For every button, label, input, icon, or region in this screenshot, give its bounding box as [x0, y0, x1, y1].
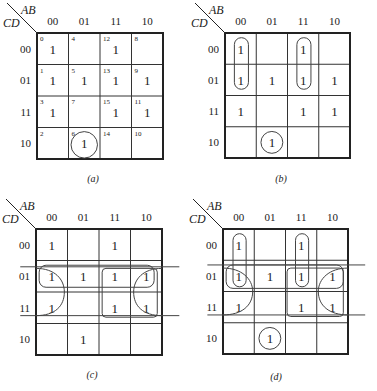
- row-label: 11: [19, 302, 30, 314]
- cell-value: 1: [298, 300, 305, 315]
- row-label: 10: [20, 137, 32, 149]
- cell-value: 1: [237, 42, 244, 57]
- cell-value: 1: [237, 73, 244, 88]
- cell-value: 1: [50, 42, 57, 57]
- minterm-index: 3: [40, 98, 44, 106]
- cell-value: 1: [112, 269, 119, 284]
- cell-value: 1: [237, 104, 244, 119]
- karnaugh-map-figure: ABCD000111100001111004128151393715112614…: [0, 0, 377, 391]
- row-label: 01: [19, 270, 30, 282]
- cell-value: 1: [235, 238, 242, 253]
- loop-group: [20, 265, 179, 317]
- row-label: 00: [19, 239, 31, 251]
- cell-value: 1: [80, 269, 87, 284]
- minterm-index: 7: [72, 98, 76, 106]
- kmap-b: ABCD00011110000111101111111111(b): [191, 3, 350, 185]
- minterm-index: 14: [103, 130, 111, 138]
- col-label: 11: [296, 211, 307, 223]
- col-var-label: AB: [206, 199, 222, 213]
- col-label: 10: [141, 211, 153, 223]
- col-label: 11: [110, 15, 121, 27]
- cell-value: 1: [113, 73, 120, 88]
- kmap-d: ABCD00011110000111101111111111(d): [189, 199, 365, 383]
- kmap-c: ABCD00011110000111101111111111(c): [2, 199, 179, 381]
- row-var-label: CD: [189, 212, 206, 226]
- cell-value: 1: [267, 269, 274, 284]
- row-label: 10: [206, 332, 218, 344]
- minterm-index: 10: [135, 130, 143, 138]
- row-label: 01: [208, 74, 219, 86]
- cell-value: 1: [81, 136, 88, 151]
- col-label: 00: [46, 211, 58, 223]
- cell-value: 1: [50, 73, 57, 88]
- cell-value: 1: [269, 73, 276, 88]
- col-label: 10: [142, 15, 154, 27]
- kmap-canvas: ABCD000111100001111004128151393715112614…: [0, 0, 377, 391]
- col-var-label: AB: [20, 3, 36, 17]
- minterm-index: 9: [135, 67, 139, 75]
- caption: (b): [275, 173, 287, 185]
- minterm-index: 5: [72, 67, 76, 75]
- minterm-index: 11: [135, 98, 142, 106]
- row-label: 10: [19, 333, 31, 345]
- col-label: 10: [329, 15, 341, 27]
- cell-value: 1: [113, 105, 120, 120]
- cell-value: 1: [112, 238, 119, 253]
- row-label: 00: [206, 239, 218, 251]
- row-label: 00: [208, 43, 220, 55]
- row-label: 00: [20, 43, 32, 55]
- cell-value: 1: [298, 269, 305, 284]
- minterm-index: 1: [40, 67, 44, 75]
- col-var-label: AB: [19, 199, 35, 213]
- col-var-label: AB: [208, 3, 224, 17]
- cell-value: 1: [81, 73, 88, 88]
- cell-value: 1: [113, 42, 120, 57]
- cell-value: 1: [269, 135, 276, 150]
- cell-value: 1: [144, 73, 151, 88]
- minterm-index: 0: [40, 35, 44, 43]
- row-label: 01: [206, 270, 217, 282]
- minterm-index: 4: [72, 35, 76, 43]
- minterm-index: 15: [103, 98, 111, 106]
- cell-value: 1: [300, 104, 307, 119]
- caption: (a): [87, 173, 99, 185]
- col-label: 01: [266, 15, 277, 27]
- cell-value: 1: [112, 301, 119, 316]
- cell-value: 1: [144, 105, 151, 120]
- caption: (c): [86, 369, 98, 381]
- row-var-label: CD: [2, 212, 19, 226]
- kmap-a: ABCD000111100001111004128151393715112614…: [3, 3, 163, 185]
- cell-value: 1: [331, 73, 338, 88]
- cell-value: 1: [80, 332, 87, 347]
- cell-value: 1: [50, 105, 57, 120]
- caption: (d): [270, 371, 282, 383]
- cell-value: 1: [267, 331, 274, 346]
- cell-value: 1: [331, 104, 338, 119]
- col-label: 11: [298, 15, 309, 27]
- col-label: 00: [235, 15, 247, 27]
- row-label: 01: [20, 74, 31, 86]
- row-label: 11: [208, 105, 219, 117]
- row-var-label: CD: [3, 16, 20, 30]
- cell-value: 1: [298, 238, 305, 253]
- row-label: 11: [20, 106, 31, 118]
- row-label: 11: [206, 301, 217, 313]
- col-label: 00: [47, 15, 59, 27]
- row-var-label: CD: [191, 16, 208, 30]
- row-label: 10: [208, 136, 220, 148]
- col-label: 01: [264, 211, 275, 223]
- minterm-index: 2: [40, 130, 44, 138]
- cell-value: 1: [300, 42, 307, 57]
- minterm-index: 13: [103, 67, 111, 75]
- col-label: 00: [233, 211, 245, 223]
- col-label: 11: [109, 211, 120, 223]
- minterm-index: 8: [135, 35, 139, 43]
- col-label: 10: [327, 211, 339, 223]
- col-label: 01: [79, 15, 90, 27]
- cell-value: 1: [300, 73, 307, 88]
- col-label: 01: [78, 211, 89, 223]
- minterm-index: 12: [103, 35, 111, 43]
- cell-value: 1: [49, 238, 56, 253]
